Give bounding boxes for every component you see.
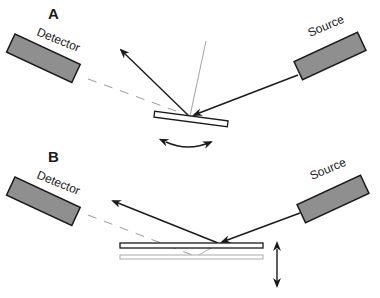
detector-b-beam-dashed [88,215,200,258]
source-b: Source [297,155,369,223]
panel-b-label: B [48,148,59,165]
sample-a [154,111,228,127]
panel-b: B Detector Source [7,148,369,286]
reflected-beam-a [121,50,190,117]
source-b-label: Source [308,155,349,183]
rotation-arrow-icon [166,142,211,147]
source-b-body [297,175,369,223]
detector-b: Detector [7,168,83,226]
panel-a-label: A [48,5,59,22]
surface-normal-a [190,41,206,116]
reflected-beam-b [113,201,218,243]
incident-beam-a [194,75,298,115]
incident-beam-b [222,213,300,242]
reflectometry-diagram: A Detector Source B Detector [0,0,380,298]
source-a-label: Source [306,12,347,40]
detector-a-beam-dashed [88,79,176,111]
sample-b-lower-position [120,255,263,259]
detector-a: Detector [7,25,83,83]
panel-a: A Detector Source [7,5,366,147]
source-a-body [294,32,366,80]
source-a: Source [294,12,366,80]
sample-b [120,243,263,248]
